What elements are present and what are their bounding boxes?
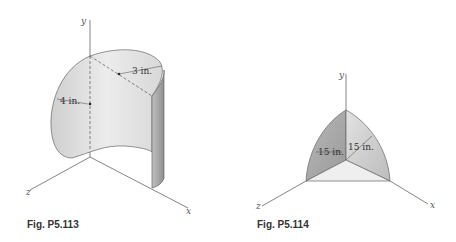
dim-label-3in: 3 in. [132,66,152,76]
caption-p5-114: Fig. P5.114 [257,219,309,230]
z-axis [30,157,90,190]
z-axis-label: z [25,187,31,197]
z-axis [262,181,306,206]
x-axis [90,157,188,208]
caption-p5-113: Fig. P5.113 [27,219,79,230]
dim-label-15in-right: 15 in. [348,142,374,152]
x-axis [390,181,428,204]
center-dot-height [89,103,92,106]
x-axis-label: x [430,200,435,210]
figure-p5-113: y z x 4 in. 3 in. Fig. P5.113 [25,16,191,230]
y-axis-label: y [338,70,345,80]
dim-label-15in-left: 15 in. [318,147,344,157]
dim-label-4in: 4 in. [60,96,80,106]
figures-canvas: y z x 4 in. 3 in. Fig. P5.113 y z x [0,0,456,242]
z-axis-label: z [255,201,261,211]
y-axis-label: y [80,16,87,26]
figure-p5-114: y z x 15 in. 15 in. Fig. P5.114 [255,70,435,230]
x-axis-label: x [186,206,191,216]
